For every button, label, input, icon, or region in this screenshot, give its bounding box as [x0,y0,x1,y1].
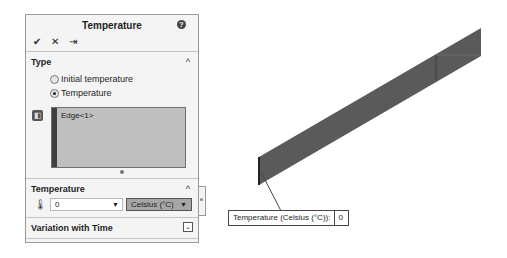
radio-button-icon[interactable] [50,75,59,84]
radio-label: Initial temperature [61,74,133,84]
panel-header: Temperature ? ✔ ✕ ⇥ [26,15,198,52]
collapse-caret-icon[interactable]: ^ [186,184,190,194]
callout-value-input[interactable]: 0 [335,211,348,225]
dropdown-arrow-icon[interactable]: ▼ [112,199,119,210]
action-bar: ✔ ✕ ⇥ [32,36,78,47]
thermometer-icon: 🌡 [34,199,47,210]
variation-section: Variation with Time ⌄ [26,218,198,239]
beam-body[interactable] [259,28,481,185]
type-section: Type ^ Initial temperature Temperature ◧… [26,52,198,179]
selection-item[interactable]: Edge<1> [61,111,93,120]
pin-icon[interactable]: ⇥ [68,36,78,47]
radio-label: Temperature [61,88,112,98]
temperature-value: 0 [55,200,59,209]
selection-active-bar [52,108,57,167]
temperature-callout[interactable]: Temperature (Celsius (°C)): 0 [228,210,349,226]
variation-section-title: Variation with Time [31,223,113,233]
cancel-x-icon[interactable]: ✕ [50,36,60,47]
radio-temperature[interactable]: Temperature [50,88,112,98]
ok-check-icon[interactable]: ✔ [32,36,42,47]
property-manager-panel: Temperature ? ✔ ✕ ⇥ Type ^ Initial tempe… [25,14,199,243]
edge-selection-icon: ◧ [32,110,43,121]
tab-grip-icon [200,198,203,201]
selection-list-box[interactable]: Edge<1> [51,107,186,168]
panel-title: Temperature [26,20,198,31]
panel-side-tab[interactable] [199,186,206,216]
type-section-title: Type [31,57,51,67]
temperature-value-input[interactable]: 0 ▼ [50,198,123,211]
unit-value: Celsius (°C) [131,200,174,209]
temperature-section-title: Temperature [31,184,85,194]
temperature-section: Temperature ^ 🌡 0 ▼ Celsius (°C) ▼ [26,179,198,218]
radio-initial-temperature[interactable]: Initial temperature [50,74,133,84]
help-icon[interactable]: ? [177,20,186,29]
radio-button-selected-icon[interactable] [50,89,59,98]
collapse-caret-icon[interactable]: ^ [186,57,190,67]
unit-select[interactable]: Celsius (°C) ▼ [126,198,192,211]
expand-chevron-icon[interactable]: ⌄ [183,222,193,232]
resize-handle[interactable] [120,170,124,174]
callout-label: Temperature (Celsius (°C)): [229,211,335,225]
dropdown-arrow-icon[interactable]: ▼ [180,199,187,210]
